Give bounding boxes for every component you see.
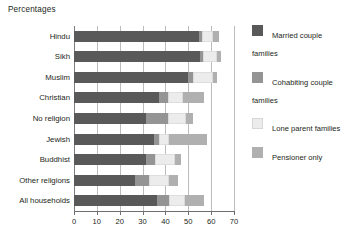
bar-segment bbox=[159, 134, 169, 145]
legend-swatch bbox=[252, 25, 263, 36]
bar-segment bbox=[149, 175, 168, 186]
x-tick-label: 70 bbox=[224, 217, 244, 226]
bar-segment bbox=[74, 72, 188, 83]
stacked-bar-chart: Percentages HinduSikhMuslimChristianNo r… bbox=[0, 0, 348, 241]
category-label: Other religions bbox=[0, 175, 70, 186]
x-tick-label: 30 bbox=[133, 217, 153, 226]
legend-swatch bbox=[252, 118, 263, 129]
x-tick-mark bbox=[74, 211, 75, 215]
x-tick-label: 0 bbox=[64, 217, 84, 226]
bar-row bbox=[74, 154, 234, 165]
bar-segment bbox=[74, 195, 157, 206]
bar-segment bbox=[74, 31, 199, 42]
legend-item: Pensioner only bbox=[252, 146, 346, 164]
legend-label: Cohabiting couple families bbox=[252, 78, 333, 105]
bar-segment bbox=[159, 92, 168, 103]
bar-segment bbox=[155, 154, 174, 165]
x-tick-label: 50 bbox=[178, 217, 198, 226]
bar-row bbox=[74, 72, 234, 83]
legend-item: Married couple families bbox=[252, 24, 346, 60]
bar-segment bbox=[135, 175, 150, 186]
bar-row bbox=[74, 113, 234, 124]
legend-item: Cohabiting couple families bbox=[252, 71, 346, 107]
bar-segment bbox=[74, 92, 159, 103]
category-label: No religion bbox=[0, 113, 70, 124]
x-tick-mark bbox=[234, 211, 235, 215]
legend-swatch bbox=[252, 147, 263, 158]
bar-segment bbox=[74, 175, 135, 186]
x-tick-mark bbox=[211, 211, 212, 215]
x-tick-label: 20 bbox=[110, 217, 130, 226]
bar-segment bbox=[193, 72, 214, 83]
bar-segment bbox=[217, 51, 222, 62]
category-label: Muslim bbox=[0, 72, 70, 83]
bar-row bbox=[74, 92, 234, 103]
x-tick-mark bbox=[97, 211, 98, 215]
bar-segment bbox=[169, 175, 178, 186]
legend: Married couple familiesCohabiting couple… bbox=[252, 24, 346, 174]
bar-segment bbox=[146, 154, 155, 165]
bar-segment bbox=[157, 195, 168, 206]
legend-label: Lone parent families bbox=[272, 124, 340, 133]
legend-swatch bbox=[252, 72, 263, 83]
bar-segment bbox=[74, 154, 146, 165]
x-tick-mark bbox=[165, 211, 166, 215]
legend-label: Pensioner only bbox=[272, 153, 322, 162]
x-tick-label: 60 bbox=[201, 217, 221, 226]
bar-segment bbox=[169, 195, 185, 206]
x-tick-mark bbox=[120, 211, 121, 215]
legend-item: Lone parent families bbox=[252, 117, 346, 135]
category-axis-labels: HinduSikhMuslimChristianNo religionJewis… bbox=[0, 26, 70, 211]
x-tick-mark bbox=[143, 211, 144, 215]
x-tick-label: 10 bbox=[87, 217, 107, 226]
bar-row bbox=[74, 31, 234, 42]
bar-segment bbox=[74, 51, 200, 62]
plot-area bbox=[74, 26, 234, 211]
gridline-70 bbox=[234, 26, 235, 211]
bar-segment bbox=[175, 154, 182, 165]
category-label: Christian bbox=[0, 92, 70, 103]
category-label: Buddhist bbox=[0, 154, 70, 165]
bar-segment bbox=[146, 113, 168, 124]
bar-segment bbox=[168, 113, 186, 124]
bar-segment bbox=[213, 31, 219, 42]
bar-segment bbox=[183, 92, 205, 103]
bar-row bbox=[74, 134, 234, 145]
bars-layer bbox=[74, 26, 234, 211]
bar-segment bbox=[74, 134, 154, 145]
bar-segment bbox=[168, 92, 183, 103]
bar-row bbox=[74, 195, 234, 206]
category-label: Jewish bbox=[0, 134, 70, 145]
bar-segment bbox=[185, 195, 204, 206]
bar-segment bbox=[202, 31, 213, 42]
bar-segment bbox=[74, 113, 146, 124]
bar-row bbox=[74, 51, 234, 62]
x-tick-mark bbox=[188, 211, 189, 215]
bar-segment bbox=[169, 134, 207, 145]
category-label: Hindu bbox=[0, 31, 70, 42]
bar-row bbox=[74, 175, 234, 186]
category-label: All households bbox=[0, 195, 70, 206]
chart-title: Percentages bbox=[8, 5, 56, 14]
x-tick-label: 40 bbox=[155, 217, 175, 226]
category-label: Sikh bbox=[0, 51, 70, 62]
bar-segment bbox=[203, 51, 217, 62]
bar-segment bbox=[213, 72, 216, 83]
bar-segment bbox=[186, 113, 193, 124]
